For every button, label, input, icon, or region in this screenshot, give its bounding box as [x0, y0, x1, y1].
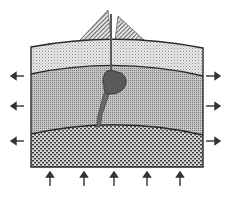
mantle-layer	[31, 125, 203, 167]
rift-volcano-diagram	[0, 0, 231, 199]
volcanic-conduit	[110, 14, 112, 74]
left-tension-arrows	[11, 73, 24, 145]
right-tension-arrows	[206, 73, 220, 145]
diagram-canvas	[0, 0, 231, 199]
uplift-arrows	[47, 172, 184, 186]
